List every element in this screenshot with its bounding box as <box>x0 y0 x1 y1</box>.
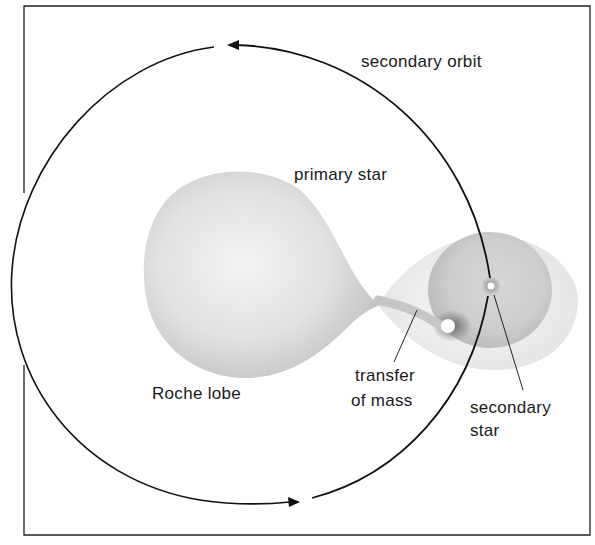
label-secondary-orbit: secondary orbit <box>361 52 482 72</box>
label-star: star <box>470 421 500 441</box>
orbit-arrow-bottom-icon <box>288 497 300 507</box>
label-secondary: secondary <box>470 398 551 418</box>
primary-roche-lobe <box>144 172 380 378</box>
secondary-star <box>488 283 495 290</box>
roche-lobe-diagram <box>0 0 595 545</box>
orbit-arrow-top-icon <box>227 40 239 50</box>
label-roche-lobe: Roche lobe <box>152 384 241 404</box>
label-primary-star: primary star <box>294 165 387 185</box>
label-transfer: transfer <box>355 366 415 386</box>
label-of-mass: of mass <box>351 391 413 411</box>
hot-spot <box>441 319 455 333</box>
